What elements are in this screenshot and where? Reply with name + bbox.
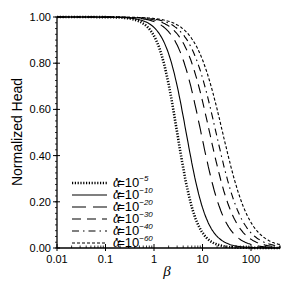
y-axis-label: Normalized Head [9, 78, 25, 186]
x-tick-label: 10 [196, 253, 208, 265]
chart: 0.000.200.400.600.801.000.010.1110100 α•… [0, 0, 293, 290]
series-line [57, 17, 280, 246]
x-tick-label: 100 [242, 253, 260, 265]
y-tick-label: 0.20 [30, 196, 51, 208]
x-tick-label: 0.01 [46, 253, 67, 265]
series-line [57, 17, 280, 247]
curves [57, 17, 280, 248]
y-tick-label: 0.80 [30, 57, 51, 69]
x-tick-label: 0.1 [98, 253, 113, 265]
series-line [57, 17, 280, 245]
x-tick-label: 1 [151, 253, 157, 265]
y-tick-label: 0.40 [30, 150, 51, 162]
axes: 0.000.200.400.600.801.000.010.1110100 [30, 11, 281, 265]
x-axis-label: β [162, 263, 171, 279]
legend: α•=10−5α•=10−10α•=10−20α•=10−30α•=10−40α… [72, 174, 153, 250]
y-tick-label: 1.00 [30, 11, 51, 23]
y-tick-label: 0.60 [30, 103, 51, 115]
